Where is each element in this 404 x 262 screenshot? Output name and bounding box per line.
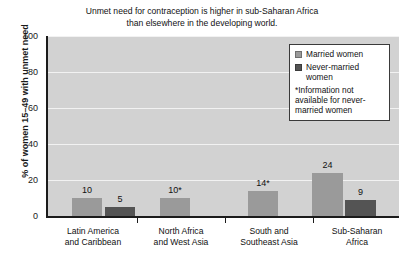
legend-footnote-line1: *Information not [295,85,385,95]
y-tick-40: 40 [4,140,38,149]
x-label-line2: and Caribbean [49,237,137,248]
x-axis-label-south-asia: South and Southeast Asia [225,226,313,247]
x-label-line1: Sub-Saharan [313,226,401,237]
y-axis-ticks: 100 80 60 40 20 0 [0,36,42,216]
legend-label-line2: women [306,72,333,82]
gridline-100 [48,36,399,37]
legend-swatch-never-married-icon [295,64,302,71]
x-label-line1: Latin America [49,226,137,237]
legend-footnote-line2: available for never- [295,95,385,105]
bar-value-married-north-africa: 10* [168,186,182,195]
legend-label-line1: Never-married [306,62,359,72]
bar-married-latin-america[interactable]: 10 [72,198,102,216]
bar-married-south-asia[interactable]: 14* [248,191,278,216]
gridline-40 [48,144,399,145]
legend-swatch-married-icon [295,51,302,58]
bar-value-married-latin-america: 10 [82,186,92,195]
legend-label-never-married-women: Never-married women [306,62,385,82]
x-label-line2: Southeast Asia [225,237,313,248]
x-label-line1: South and [225,226,313,237]
x-axis-label-north-africa: North Africa and West Asia [137,226,225,247]
y-tick-60: 60 [4,104,38,113]
chart-title-line2: than elsewhere in the developing world. [0,18,404,30]
bar-married-sub-saharan-africa[interactable]: 24 [312,173,343,216]
x-axis-label-latin-america: Latin America and Caribbean [49,226,137,247]
chart-title-line1: Unmet need for contraception is higher i… [0,6,404,18]
bar-value-never-married-latin-america: 5 [117,195,122,204]
y-tick-20: 20 [4,176,38,185]
legend-label-married-women: Married women [306,49,363,59]
chart-title: Unmet need for contraception is higher i… [0,6,404,29]
bar-never-married-latin-america[interactable]: 5 [105,207,135,216]
x-axis-tick-1 [137,216,138,223]
y-tick-100: 100 [4,32,38,41]
legend-footnote-line3: married women [295,105,385,115]
x-label-line2: Africa [313,237,401,248]
chart-legend: Married women Never-married women *Infor… [289,44,390,121]
bar-never-married-sub-saharan-africa[interactable]: 9 [345,200,376,216]
legend-item-never-married-women[interactable]: Never-married women [295,62,385,82]
x-label-line1: North Africa [137,226,225,237]
y-tick-0: 0 [4,212,38,221]
bar-value-married-south-asia: 14* [256,179,270,188]
legend-item-married-women[interactable]: Married women [295,49,385,59]
x-axis-tick-3 [313,216,314,223]
legend-footnote: *Information not available for never- ma… [295,85,385,115]
bar-value-married-sub-saharan-africa: 24 [322,161,332,170]
y-tick-80: 80 [4,68,38,77]
chart-container: Unmet need for contraception is higher i… [0,0,404,262]
x-axis-label-sub-saharan-africa: Sub-Saharan Africa [313,226,401,247]
x-axis-tick-2 [225,216,226,223]
bar-married-north-africa[interactable]: 10* [160,198,190,216]
bar-value-never-married-sub-saharan-africa: 9 [358,188,363,197]
x-label-line2: and West Asia [137,237,225,248]
gridline-20 [48,180,399,181]
